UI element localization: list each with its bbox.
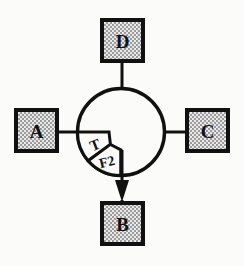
- node-a[interactable]: A: [16, 110, 57, 151]
- node-b-label: B: [116, 214, 129, 235]
- diagram-canvas: T F2 D A C B: [0, 0, 244, 266]
- arrowhead-icon: [115, 180, 129, 202]
- node-a-label: A: [30, 121, 44, 142]
- node-d-label: D: [116, 31, 130, 52]
- node-c-label: C: [201, 121, 215, 142]
- diagram-svg: T F2 D A C B: [0, 0, 244, 266]
- node-b[interactable]: B: [102, 203, 143, 244]
- node-d[interactable]: D: [102, 20, 143, 61]
- node-c[interactable]: C: [187, 110, 228, 151]
